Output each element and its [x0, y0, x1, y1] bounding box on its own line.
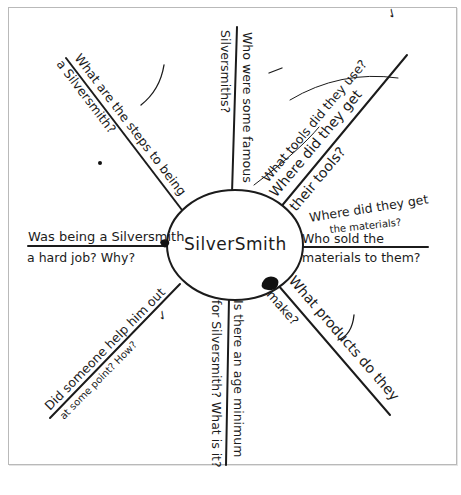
- ink-dot: [98, 161, 102, 165]
- spoke-text-bottom: Is there an age minimum: [231, 300, 246, 457]
- spoke-text-right-2: materials to them?: [302, 250, 421, 265]
- spoke-line-bottom-left: [50, 284, 180, 418]
- spoke-text-left-2: a hard job? Why?: [27, 250, 135, 265]
- spoke-text-left: Was being a Silversmith: [28, 229, 184, 244]
- spoke-text-top-2: Silversmiths?: [218, 30, 233, 113]
- spoke-text-bottom-2: for Silversmith? What is it?: [209, 300, 224, 468]
- scribble-mark: [141, 65, 164, 105]
- spoke-text-bottom-right: What products do they: [286, 272, 403, 403]
- spider-diagram: SilverSmith What are the steps to being …: [0, 0, 461, 495]
- spoke-line-bottom: [226, 298, 229, 465]
- spoke-text-bottom-left: Did someone help him out: [41, 285, 168, 413]
- spoke-text-top-left: What are the steps to being: [72, 51, 190, 199]
- center-label: SilverSmith: [184, 234, 287, 254]
- check-mark: ✓: [383, 4, 401, 22]
- spoke-text-right: Who sold the: [302, 231, 384, 246]
- scribble-mark: [269, 68, 282, 73]
- spoke-line-bottom-right: [278, 285, 390, 415]
- spoke-text-top: Who were some famous: [240, 32, 255, 183]
